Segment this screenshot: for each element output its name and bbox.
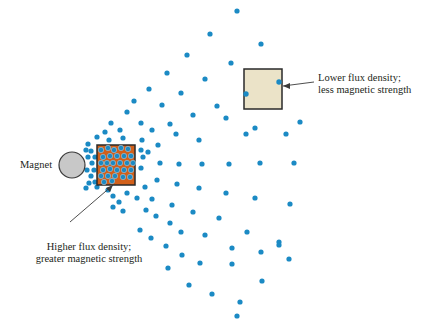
flux-dot: [276, 242, 281, 247]
flux-dot: [164, 70, 169, 75]
flux-dot: [124, 109, 129, 114]
flux-dot: [121, 167, 126, 172]
flux-dot: [167, 220, 172, 225]
flux-dot: [98, 160, 103, 165]
flux-dot: [157, 160, 162, 165]
low-flux-label-line1: Lower flux density;: [318, 72, 411, 84]
flux-dot: [159, 102, 164, 107]
flux-dot: [165, 265, 170, 270]
flux-dot: [116, 199, 121, 204]
flux-dot: [276, 79, 281, 84]
flux-dot: [131, 98, 136, 103]
flux-dot: [207, 31, 212, 36]
flux-dot: [112, 173, 117, 178]
flux-dot: [243, 131, 248, 136]
flux-dot: [105, 173, 110, 178]
flux-dot: [128, 167, 133, 172]
flux-dot: [86, 180, 91, 185]
flux-dot: [163, 243, 168, 248]
magnet-circle: [59, 152, 85, 178]
flux-dot: [104, 160, 109, 165]
flux-dot: [120, 208, 125, 213]
flux-dot: [174, 181, 179, 186]
flux-dot: [291, 160, 296, 165]
flux-dot: [105, 145, 110, 150]
flux-dot: [202, 76, 207, 81]
flux-dot: [98, 173, 103, 178]
flux-dot: [83, 185, 88, 190]
flux-dot: [186, 282, 191, 287]
flux-dot: [167, 121, 172, 126]
flux-dot: [111, 147, 116, 152]
flux-dot: [196, 185, 201, 190]
flux-dot: [179, 252, 184, 257]
flux-dot: [106, 137, 111, 142]
flux-dot: [130, 160, 135, 165]
flux-dot: [138, 147, 143, 152]
flux-dot: [199, 161, 204, 166]
flux-dot: [121, 153, 126, 158]
flux-dot: [234, 8, 239, 13]
flux-dot: [178, 229, 183, 234]
flux-dot: [223, 190, 228, 195]
flux-dot: [184, 52, 189, 57]
flux-dot: [176, 161, 181, 166]
flux-dot: [127, 174, 132, 179]
flux-dot: [125, 146, 130, 151]
pointer-arrow-high: [70, 185, 113, 222]
flux-dot: [114, 153, 119, 158]
flux-dot: [214, 103, 219, 108]
flux-dot: [197, 260, 202, 265]
flux-dot: [139, 137, 144, 142]
flux-dot: [140, 154, 145, 159]
flux-dot: [134, 195, 139, 200]
pointer-arrow-low: [283, 82, 314, 89]
flux-dot: [258, 41, 263, 46]
flux-dot: [148, 235, 153, 240]
flux-dot: [138, 120, 143, 125]
flux-dot: [283, 131, 288, 136]
flux-dot: [107, 153, 112, 158]
flux-dot: [91, 167, 96, 172]
flux-dot: [110, 193, 115, 198]
flux-dot: [243, 91, 248, 96]
flux-dot: [216, 215, 221, 220]
flux-dot: [110, 160, 115, 165]
flux-dot: [124, 190, 129, 195]
flux-dot: [145, 149, 150, 154]
flux-dot: [118, 145, 123, 150]
flux-dot: [223, 115, 228, 120]
high-flux-label-line2: greater magnetic strength: [26, 253, 152, 265]
flux-dot: [153, 213, 158, 218]
flux-dot: [109, 178, 114, 183]
flux-dot: [128, 153, 133, 158]
flux-dot: [259, 278, 264, 283]
flux-dot: [142, 184, 147, 189]
flux-dot: [88, 173, 93, 178]
flux-dot: [228, 60, 233, 65]
flux-dot: [178, 90, 183, 95]
flux-dot: [226, 161, 231, 166]
flux-dot: [83, 147, 88, 152]
high-flux-label: Higher flux density; greater magnetic st…: [26, 241, 152, 265]
flux-dot: [202, 232, 207, 237]
flux-dot: [229, 245, 234, 250]
flux-dot: [169, 202, 174, 207]
flux-dot: [102, 129, 107, 134]
flux-dot: [287, 201, 292, 206]
flux-dot: [258, 249, 263, 254]
low-flux-region-square: [244, 69, 282, 109]
flux-dot: [117, 127, 122, 132]
magnet-label: Magnet: [20, 159, 52, 171]
flux-dot: [244, 229, 249, 234]
flux-dot: [124, 160, 129, 165]
flux-dot: [101, 179, 106, 184]
flux-dot: [137, 227, 142, 232]
flux-dot: [114, 167, 119, 172]
flux-dot: [149, 196, 154, 201]
high-flux-label-line1: Higher flux density;: [26, 241, 152, 253]
flux-dot: [117, 160, 122, 165]
flux-dot: [94, 134, 99, 139]
flux-dot: [237, 299, 242, 304]
flux-dot: [173, 131, 178, 136]
